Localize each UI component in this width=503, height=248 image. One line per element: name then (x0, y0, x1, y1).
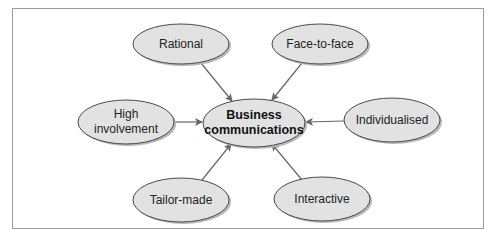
node-label-line1: Individualised (356, 113, 429, 128)
node-label-line2: communications (204, 123, 303, 138)
node-label-face-to-face: Face-to-face (286, 37, 353, 52)
node-label-line1: Tailor-made (150, 193, 213, 208)
arrow-individualised-to-business-communications (306, 121, 344, 122)
node-label-line2: involvement (94, 122, 158, 137)
arrow-face-to-face-to-business-communications (272, 63, 302, 100)
node-label-rational: Rational (159, 37, 203, 52)
node-label-line1: Rational (159, 37, 203, 52)
node-label-line1: Interactive (294, 192, 349, 207)
arrow-interactive-to-business-communications (272, 144, 302, 180)
node-label-tailor-made: Tailor-made (150, 193, 213, 208)
node-label-line1: High (94, 107, 158, 122)
node-label-high-involvement: High involvement (94, 107, 158, 137)
diagram-stage: Business communications Rational Face-to… (0, 0, 503, 248)
node-label-interactive: Interactive (294, 192, 349, 207)
node-label-business-communications: Business communications (204, 108, 303, 138)
node-label-line1: Business (204, 108, 303, 123)
node-label-line1: Face-to-face (286, 37, 353, 52)
node-label-individualised: Individualised (356, 113, 429, 128)
arrow-tailor-made-to-business-communications (202, 144, 231, 180)
arrow-rational-to-business-communications (201, 63, 232, 101)
